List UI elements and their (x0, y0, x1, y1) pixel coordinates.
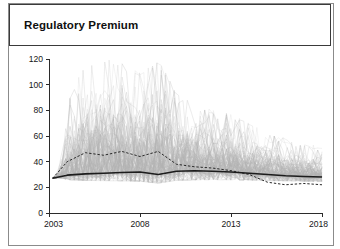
y-tick-label: 40 (33, 157, 43, 167)
x-tick-label: 2003 (44, 219, 63, 229)
page-title: Regulatory Premium (10, 19, 138, 31)
chart-plot-area: 0204060801001202003200820132018 (9, 47, 331, 245)
y-tick-label: 80 (33, 105, 43, 115)
simulated-paths-group (53, 60, 322, 183)
y-tick-label: 100 (29, 80, 44, 90)
x-tick-label: 2013 (221, 219, 240, 229)
title-box: Regulatory Premium (9, 4, 331, 46)
y-tick-label: 20 (33, 182, 43, 192)
x-tick-label: 2018 (309, 219, 328, 229)
regulatory-premium-chart: 0204060801001202003200820132018 (9, 47, 331, 245)
chart-panel: Regulatory Premium 020406080100120200320… (0, 0, 340, 249)
y-tick-label: 0 (38, 208, 43, 218)
y-tick-label: 60 (33, 131, 43, 141)
y-tick-label: 120 (29, 54, 44, 64)
x-tick-label: 2008 (130, 219, 149, 229)
